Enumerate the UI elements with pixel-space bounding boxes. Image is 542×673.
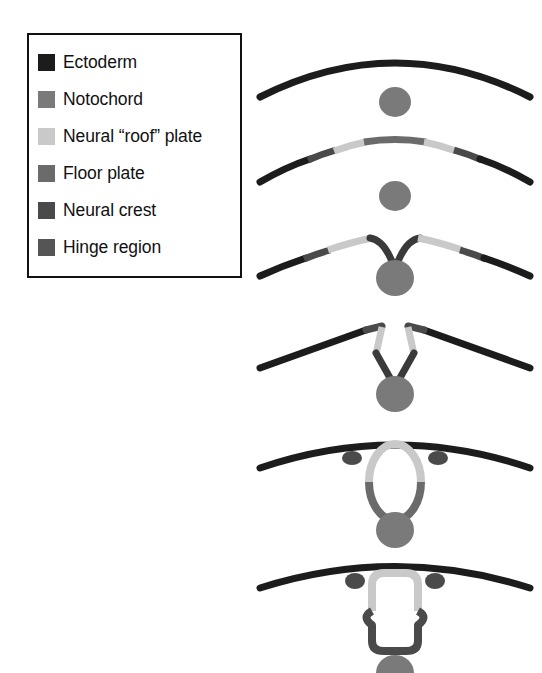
- ectoderm-left-stage2: [260, 159, 310, 182]
- notochord-stage5: [376, 512, 414, 548]
- roof-plate-tube-stage6: [372, 573, 418, 611]
- roof-plate-tube-stage5: [369, 444, 421, 482]
- legend-label-neural-crest: Neural crest: [63, 202, 156, 220]
- ectoderm-left-stage4: [260, 330, 366, 368]
- stage-2-neural-plate-regions: [248, 134, 542, 230]
- stage-5-neural-tube-closing: [248, 420, 542, 545]
- neural-crest-left-stage3: [304, 250, 330, 259]
- roof-plate-left-stage3: [328, 238, 372, 250]
- ectoderm-right-stage2: [480, 159, 530, 182]
- legend-label-notochord: Notochord: [63, 91, 143, 109]
- ectoderm-arc-stage5: [260, 445, 530, 468]
- legend-label-hinge-region: Hinge region: [63, 239, 161, 257]
- legend-item-notochord: Notochord: [29, 81, 240, 118]
- ectoderm-left-stage3: [260, 258, 306, 276]
- notochord-stage3: [376, 260, 414, 296]
- legend-item-neural-crest: Neural crest: [29, 192, 240, 229]
- neural-crest-right-stage5: [428, 451, 448, 465]
- legend-label-floor-plate: Floor plate: [63, 165, 145, 183]
- roof-plate-right-stage2: [424, 142, 456, 151]
- legend: Ectoderm Notochord Neural “roof” plate F…: [27, 33, 242, 278]
- stage-4-neural-folds-elevating: [248, 310, 542, 415]
- stage-3-neural-groove: [248, 228, 542, 320]
- legend-list: Ectoderm Notochord Neural “roof” plate F…: [29, 35, 240, 266]
- legend-swatch-hinge-region: [38, 239, 55, 256]
- roof-plate-right-stage3: [418, 238, 462, 250]
- neural-crest-left-stage2: [308, 150, 336, 160]
- legend-label-ectoderm: Ectoderm: [63, 54, 137, 72]
- neural-crest-left-stage6: [345, 573, 365, 589]
- ectoderm-right-stage4: [424, 330, 530, 368]
- stage-6-neural-tube-closed: [248, 545, 542, 673]
- stage-1-flat-neural-plate: [248, 25, 542, 130]
- legend-item-floor-plate: Floor plate: [29, 155, 240, 192]
- notochord-stage4: [376, 376, 414, 412]
- legend-swatch-notochord: [38, 91, 55, 108]
- legend-swatch-roof-plate: [38, 128, 55, 145]
- notochord-stage1: [379, 87, 411, 117]
- neural-crest-right-stage6: [425, 573, 445, 589]
- floor-plate-center-stage2: [364, 140, 426, 143]
- notochord-stage2: [379, 181, 411, 211]
- legend-label-roof-plate: Neural “roof” plate: [63, 128, 202, 146]
- neurulation-figure: Ectoderm Notochord Neural “roof” plate F…: [0, 0, 542, 673]
- legend-item-hinge-region: Hinge region: [29, 229, 240, 266]
- hinge-right-stage3: [397, 238, 420, 264]
- notochord-stage6: [376, 655, 414, 673]
- legend-swatch-neural-crest: [38, 202, 55, 219]
- neural-crest-left-stage5: [342, 451, 362, 465]
- legend-item-roof-plate: Neural “roof” plate: [29, 118, 240, 155]
- floor-plate-tube-stage6: [367, 611, 424, 651]
- legend-swatch-floor-plate: [38, 165, 55, 182]
- legend-item-ectoderm: Ectoderm: [29, 44, 240, 81]
- hinge-left-stage3: [370, 238, 393, 264]
- ectoderm-right-stage3: [484, 258, 530, 276]
- legend-swatch-ectoderm: [38, 54, 55, 71]
- roof-plate-left-stage2: [334, 142, 366, 151]
